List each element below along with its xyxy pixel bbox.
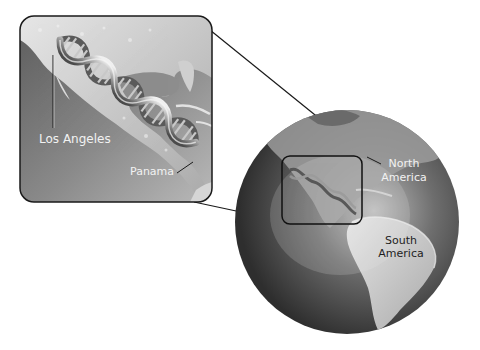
north-america-label-line2: America [381, 171, 426, 184]
zoom-inset-map [20, 16, 212, 202]
south-america-label-line1: South [385, 234, 417, 247]
panama-text: Panama [130, 165, 174, 178]
los-angeles-text: Los Angeles [39, 132, 111, 146]
illustration: North America South America [0, 0, 480, 350]
globe [235, 107, 459, 334]
south-america-label: South America [378, 234, 423, 260]
south-america-label-line2: America [378, 247, 423, 260]
north-america-label-line1: North [389, 157, 420, 170]
